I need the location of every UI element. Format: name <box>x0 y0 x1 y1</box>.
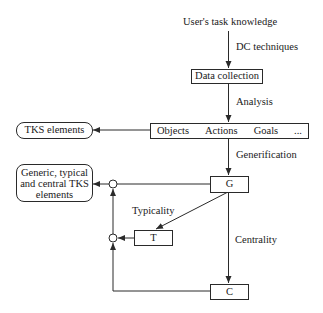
edge-label-generification: Generification <box>236 150 297 161</box>
element-actions: Actions <box>205 126 238 137</box>
junction-circle-2 <box>109 234 117 242</box>
element-goals: Goals <box>254 126 279 137</box>
output-line-3: elements <box>36 189 73 200</box>
arrow-c-to-junction2 <box>113 243 210 291</box>
source-label: User's task knowledge <box>183 17 277 28</box>
junction-circle-1 <box>109 180 117 188</box>
edge-label-dc-techniques: DC techniques <box>236 42 298 53</box>
node-elements-row: Objects Actions Goals ... <box>150 123 309 139</box>
node-t: T <box>134 230 173 246</box>
node-output: Generic, typical and central TKS element… <box>16 164 93 202</box>
output-line-2: and central TKS <box>20 178 89 189</box>
output-line-1: Generic, typical <box>21 167 88 178</box>
edge-label-analysis: Analysis <box>236 97 273 108</box>
element-ellipsis: ... <box>294 126 302 137</box>
node-g: G <box>210 176 249 193</box>
node-data-collection: Data collection <box>191 69 263 84</box>
element-objects: Objects <box>157 126 189 137</box>
edge-label-typicality: Typicality <box>132 206 174 217</box>
edge-label-centrality: Centrality <box>235 235 277 246</box>
node-c: C <box>210 284 249 300</box>
node-tks-elements: TKS elements <box>16 122 93 139</box>
